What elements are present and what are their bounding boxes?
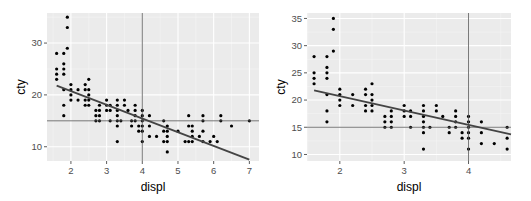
x-tick-label: 2 (337, 165, 342, 176)
data-point (422, 147, 425, 150)
data-point (364, 104, 367, 107)
data-point (480, 131, 483, 134)
data-point (191, 140, 194, 143)
data-point (62, 67, 65, 70)
data-point (351, 93, 354, 96)
data-point (480, 120, 483, 123)
data-point (55, 73, 58, 76)
data-point (126, 109, 129, 112)
data-point (62, 62, 65, 65)
data-point (98, 104, 101, 107)
data-point (493, 142, 496, 145)
data-point (137, 124, 140, 127)
data-point (454, 115, 457, 118)
y-tick-label: 10 (31, 141, 42, 152)
data-point (123, 104, 126, 107)
data-point (116, 98, 119, 101)
data-point (105, 98, 108, 101)
data-point (69, 83, 72, 86)
data-point (87, 93, 90, 96)
data-point (105, 109, 108, 112)
data-point (55, 52, 58, 55)
data-point (134, 104, 137, 107)
data-point (230, 124, 233, 127)
data-point (209, 140, 212, 143)
data-point (325, 120, 328, 123)
y-tick-label: 30 (291, 40, 302, 51)
data-point (212, 135, 215, 138)
data-point (84, 98, 87, 101)
data-point (219, 114, 222, 117)
data-point (390, 115, 393, 118)
data-point (137, 130, 140, 133)
data-point (62, 104, 65, 107)
data-point (338, 104, 341, 107)
y-tick-label: 20 (31, 89, 42, 100)
data-point (325, 109, 328, 112)
x-tick-label: 3 (402, 165, 407, 176)
data-point (506, 147, 509, 150)
data-point (201, 130, 204, 133)
data-point (191, 124, 194, 127)
data-point (325, 77, 328, 80)
y-tick-label: 25 (291, 67, 302, 78)
data-point (422, 131, 425, 134)
data-point (76, 88, 79, 91)
data-point (480, 142, 483, 145)
data-point (162, 140, 165, 143)
data-point (166, 130, 169, 133)
data-point (312, 71, 315, 74)
data-point (109, 109, 112, 112)
data-point (148, 135, 151, 138)
x-axis-title: displ (397, 180, 422, 194)
data-point (422, 109, 425, 112)
data-point (364, 88, 367, 91)
data-point (84, 83, 87, 86)
data-point (84, 88, 87, 91)
y-tick-label: 20 (291, 94, 302, 105)
data-point (134, 109, 137, 112)
chart-left: 234567102030displcty (14, 13, 259, 194)
data-point (325, 55, 328, 58)
data-point (55, 78, 58, 81)
x-tick-label: 5 (175, 165, 180, 176)
data-point (332, 28, 335, 31)
data-point (370, 93, 373, 96)
data-point (448, 131, 451, 134)
data-point (201, 114, 204, 117)
data-point (325, 71, 328, 74)
data-point (383, 120, 386, 123)
charts-canvas: 234567102030displcty 234101520253035disp… (0, 0, 531, 201)
data-point (312, 82, 315, 85)
data-point (403, 115, 406, 118)
data-point (460, 137, 463, 140)
data-point (155, 135, 158, 138)
data-point (390, 109, 393, 112)
data-point (116, 114, 119, 117)
data-point (66, 47, 69, 50)
data-point (332, 49, 335, 52)
data-point (148, 114, 151, 117)
y-tick-label: 35 (291, 13, 302, 24)
x-tick-label: 6 (211, 165, 216, 176)
data-point (116, 104, 119, 107)
data-point (370, 82, 373, 85)
data-point (216, 140, 219, 143)
data-point (184, 140, 187, 143)
y-axis-title: cty (274, 79, 288, 94)
data-point (390, 120, 393, 123)
data-point (94, 109, 97, 112)
x-tick-label: 2 (68, 165, 73, 176)
data-point (69, 98, 72, 101)
data-point (62, 114, 65, 117)
data-point (87, 88, 90, 91)
data-point (435, 109, 438, 112)
data-point (364, 109, 367, 112)
data-point (312, 77, 315, 80)
y-tick-label: 15 (291, 122, 302, 133)
data-point (422, 104, 425, 107)
data-point (191, 130, 194, 133)
y-tick-label: 10 (291, 149, 302, 160)
data-point (116, 124, 119, 127)
data-point (325, 66, 328, 69)
